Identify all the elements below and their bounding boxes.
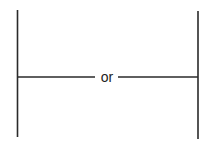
- or-diagram: or: [0, 0, 209, 142]
- connector-label: or: [96, 68, 118, 86]
